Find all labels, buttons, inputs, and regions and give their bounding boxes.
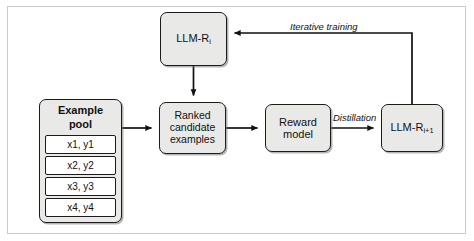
node-llm-ri-label: LLM-Ri	[176, 32, 211, 46]
example-pool-row: x1, y1	[45, 135, 116, 154]
node-ranked-candidate-examples: Ranked candidate examples	[159, 102, 226, 154]
node-llm-ri-subscript: i	[209, 37, 211, 46]
node-reward-model: Reward model	[265, 104, 331, 152]
node-ranked-label: Ranked candidate examples	[170, 110, 216, 145]
node-llm-ri1-label: LLM-Ri+1	[390, 121, 433, 135]
example-pool-row: x2, y2	[45, 156, 116, 175]
example-pool-row: x3, y3	[45, 177, 116, 196]
edge-llm-ri1-to-llm-ri	[235, 33, 413, 104]
edge-label-distillation: Distillation	[333, 112, 376, 123]
node-reward-label: Reward model	[279, 116, 317, 141]
node-example-pool: Example pool x1, y1 x2, y2 x3, y3 x4, y4	[39, 99, 122, 223]
example-pool-title: Example pool	[45, 104, 116, 132]
diagram-canvas: LLM-Ri Ranked candidate examples Reward …	[0, 0, 474, 241]
node-llm-ri-plus-1: LLM-Ri+1	[381, 104, 443, 152]
node-llm-ri1-subscript: i+1	[423, 126, 433, 135]
example-pool-row: x4, y4	[45, 198, 116, 217]
node-llm-ri: LLM-Ri	[160, 12, 227, 66]
edge-label-iterative-training: Iterative training	[290, 21, 358, 32]
